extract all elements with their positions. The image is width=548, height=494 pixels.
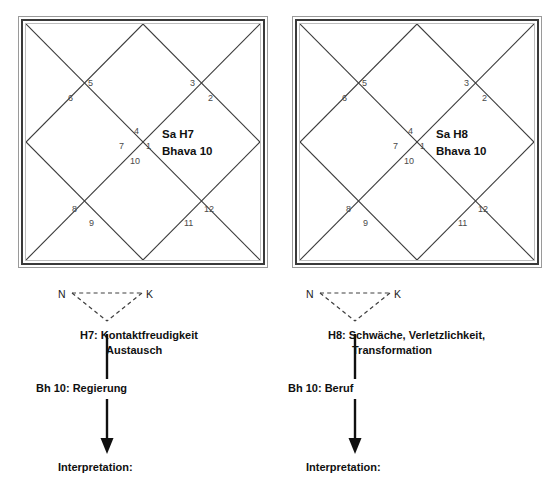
bhava-meaning-label: Bh 10: Beruf [288,381,353,396]
planet-placement-label-right: Sa H8 Bhava 10 [436,126,487,159]
house-number-7: 7 [393,142,398,151]
house-number-2: 2 [482,94,487,103]
planet-line-1: Sa H7 [162,126,213,143]
arrow-head-down [101,438,114,454]
house-number-11: 11 [458,219,467,228]
interpretation-label: Interpretation: [306,460,381,475]
chart-grid-lines-right [300,24,534,260]
house-number-9: 9 [89,219,94,228]
house-number-6: 6 [68,94,73,103]
interpretation-label: Interpretation: [58,460,133,475]
dashed-left-edge [72,293,107,321]
house-number-1: 1 [420,142,425,151]
planet-placement-label-left: Sa H7 Bhava 10 [162,126,213,159]
flow-diagram-right: N K H8: Schwäche, Verletzlichkeit, Trans… [288,282,548,494]
house-number-6: 6 [342,94,347,103]
house-number-8: 8 [72,205,77,214]
house-number-4: 4 [134,127,139,136]
planet-line-1: Sa H8 [436,126,487,143]
kundali-chart-right: 5 6 3 2 4 7 1 10 8 9 12 11 Sa H8 Bhava 1… [292,16,542,268]
house-meaning-line-2: Transformation [328,343,485,358]
house-number-2: 2 [208,94,213,103]
house-number-5: 5 [88,79,93,88]
dashed-right-edge [355,293,390,321]
house-number-12: 12 [478,205,488,214]
chart-grid-lines-left [26,24,260,260]
house-number-3: 3 [190,79,195,88]
house-number-11: 11 [184,219,193,228]
house-number-4: 4 [408,127,413,136]
house-number-8: 8 [346,205,351,214]
bhava-meaning-label: Bh 10: Regierung [36,381,127,396]
diagram-page: 5 6 3 2 4 7 1 10 8 9 12 11 Sa H7 Bhava 1… [0,0,548,494]
house-meaning-line-2: Austausch [80,343,198,358]
house-number-5: 5 [362,79,367,88]
house-meaning-label: H7: Kontaktfreudigkeit Austausch [80,328,198,358]
planet-line-2: Bhava 10 [436,143,487,160]
house-number-3: 3 [464,79,469,88]
planet-line-2: Bhava 10 [162,143,213,160]
house-number-7: 7 [119,142,124,151]
dashed-right-edge [107,293,142,321]
house-meaning-line-1: H8: Schwäche, Verletzlichkeit, [328,329,485,341]
house-meaning-line-1: H7: Kontaktfreudigkeit [80,329,198,341]
house-number-10: 10 [404,157,414,166]
kundali-chart-left: 5 6 3 2 4 7 1 10 8 9 12 11 Sa H7 Bhava 1… [18,16,268,268]
house-meaning-label: H8: Schwäche, Verletzlichkeit, Transform… [328,328,485,358]
flow-diagram-left: N K H7: Kontaktfreudigkeit Austausch Bh … [36,282,296,494]
house-number-10: 10 [130,157,140,166]
arrow-head-down [349,438,362,454]
house-number-9: 9 [363,219,368,228]
dashed-left-edge [320,293,355,321]
house-number-12: 12 [204,205,214,214]
house-number-1: 1 [146,142,151,151]
